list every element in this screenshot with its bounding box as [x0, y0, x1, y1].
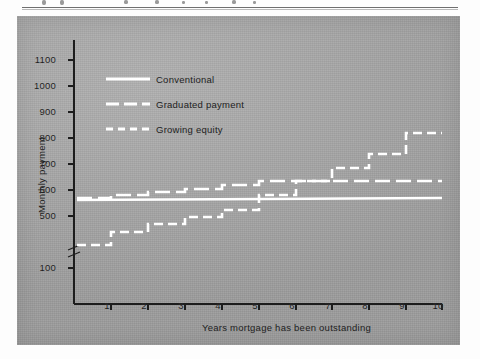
series-growing-equity — [77, 133, 442, 245]
x-tick-label-4: 4 — [208, 300, 228, 311]
x-tick-label-2: 2 — [134, 300, 154, 311]
x-tick-label-6: 6 — [282, 300, 302, 311]
figure-root: 1100 1000 900 800 700 600 500 100 1 2 3 … — [0, 0, 480, 359]
series-conventional — [77, 198, 442, 200]
y-tick-label-1100: 1100 — [24, 54, 56, 65]
legend-keys — [106, 79, 150, 129]
y-tick-label-900: 900 — [24, 106, 56, 117]
y-axis-title: Monthly payment — [36, 137, 47, 213]
y-tick-marks — [68, 60, 74, 268]
x-tick-label-10: 10 — [428, 300, 448, 311]
page-rule-top — [22, 7, 458, 8]
x-axis-title: Years mortgage has been outstanding — [202, 322, 371, 333]
x-tick-label-8: 8 — [355, 300, 375, 311]
scan-artifacts — [0, 0, 480, 6]
x-tick-label-5: 5 — [245, 300, 265, 311]
x-tick-label-7: 7 — [318, 300, 338, 311]
chart-plot — [17, 16, 460, 345]
y-tick-label-1000: 1000 — [24, 80, 56, 91]
x-tick-label-9: 9 — [392, 300, 412, 311]
page-rule-top-shadow — [22, 9, 458, 10]
legend-label-graduated-payment: Graduated payment — [156, 99, 244, 110]
legend-label-conventional: Conventional — [156, 74, 214, 85]
x-tick-label-3: 3 — [171, 300, 191, 311]
legend-label-growing-equity: Growing equity — [156, 124, 223, 135]
y-tick-label-100: 100 — [24, 262, 56, 273]
x-tick-label-1: 1 — [97, 300, 117, 311]
